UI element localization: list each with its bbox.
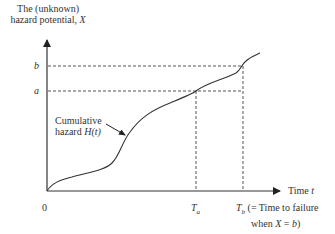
curve-label-line1: Cumulative (55, 115, 102, 126)
curve-label: Cumulative hazard H(t) (55, 115, 102, 137)
curve-label-line2: hazard H(t) (55, 126, 102, 137)
tick-a-label: a (34, 85, 39, 96)
x-axis-label: Time t (288, 185, 314, 196)
hazard-diagram (0, 0, 335, 234)
tick-tb-label: Tb (= Time to failure when X = b) (236, 202, 318, 229)
curve-pointer-arrow (106, 124, 125, 135)
tick-b-label: b (34, 60, 39, 71)
y-axis-title: The (unknown) hazard potential, X (8, 3, 88, 25)
tick-ta-label: Ta (191, 202, 200, 218)
y-axis-title-line1: The (unknown) (8, 3, 88, 14)
y-axis-title-line2: hazard potential, X (8, 14, 88, 25)
origin-label: 0 (42, 202, 47, 213)
